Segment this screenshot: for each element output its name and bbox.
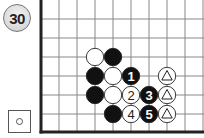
white-stone-marked <box>158 86 175 103</box>
white-stone <box>104 86 121 103</box>
svg-text:1: 1 <box>127 69 134 84</box>
go-board: 12345 <box>0 0 204 138</box>
white-stone-marked <box>158 67 175 84</box>
black-stone-move-5: 5 <box>140 105 157 122</box>
black-stone <box>86 86 103 103</box>
black-stone <box>86 67 103 84</box>
black-stone-move-3: 3 <box>140 86 157 103</box>
white-stone <box>86 48 103 65</box>
white-stone-move-4: 4 <box>122 105 139 122</box>
black-stone-move-1: 1 <box>122 67 139 84</box>
svg-text:4: 4 <box>127 107 134 122</box>
white-stone-move-2: 2 <box>122 86 139 103</box>
black-stone <box>104 105 121 122</box>
white-stone-marked <box>158 105 175 122</box>
svg-text:3: 3 <box>145 88 152 103</box>
svg-text:5: 5 <box>145 107 152 122</box>
white-stone <box>104 67 121 84</box>
black-stone <box>104 48 121 65</box>
svg-text:2: 2 <box>127 88 134 103</box>
